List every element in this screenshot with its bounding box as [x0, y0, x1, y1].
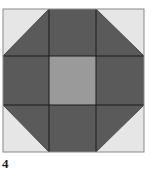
figure-label: 4 [2, 156, 9, 170]
top-middle-square [49, 9, 96, 56]
bottom-middle-square [49, 105, 96, 152]
quilt-block-diagram [0, 0, 155, 170]
center-square [49, 56, 96, 105]
middle-left-square [3, 56, 49, 105]
middle-right-square [96, 56, 144, 105]
